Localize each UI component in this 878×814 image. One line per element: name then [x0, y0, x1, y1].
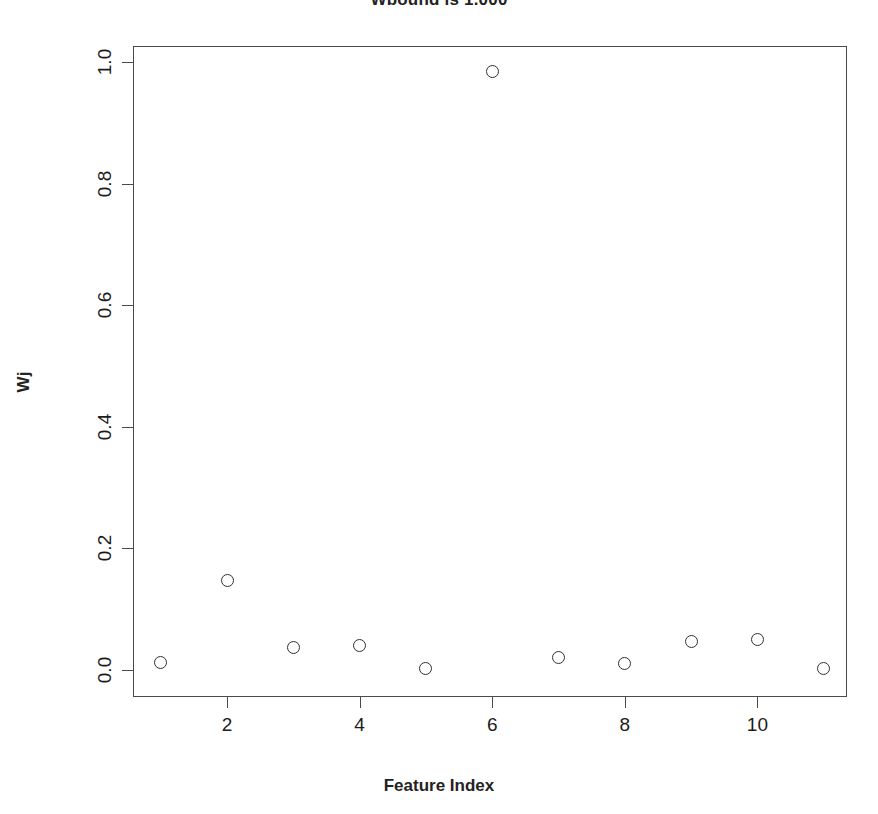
y-axis-title: Wj — [14, 372, 34, 393]
x-axis-tick-label: 10 — [727, 714, 787, 736]
r-plot-figure: Wbound is 1.000 Wj Feature Index 0.00.20… — [0, 0, 878, 814]
y-axis-tick — [122, 184, 133, 185]
x-axis-title: Feature Index — [0, 776, 878, 796]
x-axis-tick-label: 6 — [462, 714, 522, 736]
data-point — [751, 633, 764, 646]
y-axis-tick — [122, 427, 133, 428]
y-axis-tick-label-text: 1.0 — [94, 49, 116, 75]
plot-frame — [133, 46, 847, 697]
y-axis-tick — [122, 305, 133, 306]
x-axis-tick — [492, 697, 493, 708]
y-axis-tick — [122, 548, 133, 549]
y-axis-tick-label: 1.0 — [0, 51, 118, 73]
y-axis-tick-label-text: 0.0 — [94, 657, 116, 683]
y-axis-tick-label: 0.4 — [0, 416, 118, 438]
x-axis-tick — [625, 697, 626, 708]
y-axis-tick-label: 0.2 — [0, 537, 118, 559]
y-axis-tick-label-text: 0.2 — [94, 535, 116, 561]
y-axis-tick-label: 0.6 — [0, 294, 118, 316]
y-axis-tick — [122, 670, 133, 671]
x-axis-tick-label: 8 — [595, 714, 655, 736]
y-axis-tick-label-text: 0.8 — [94, 170, 116, 196]
x-axis-tick — [360, 697, 361, 708]
data-point — [287, 641, 300, 654]
data-point — [486, 65, 499, 78]
x-axis-tick — [757, 697, 758, 708]
x-axis-tick-label: 2 — [197, 714, 257, 736]
data-point — [154, 656, 167, 669]
x-axis-tick-label: 4 — [330, 714, 390, 736]
y-axis-tick-label-text: 0.4 — [94, 414, 116, 440]
y-axis-tick-label-text: 0.6 — [94, 292, 116, 318]
y-axis-tick-label: 0.0 — [0, 659, 118, 681]
data-point — [685, 635, 698, 648]
data-point — [221, 574, 234, 587]
y-axis-tick — [122, 62, 133, 63]
data-point — [552, 651, 565, 664]
page-title: Wbound is 1.000 — [0, 0, 878, 10]
y-axis-tick-label: 0.8 — [0, 173, 118, 195]
x-axis-tick — [227, 697, 228, 708]
